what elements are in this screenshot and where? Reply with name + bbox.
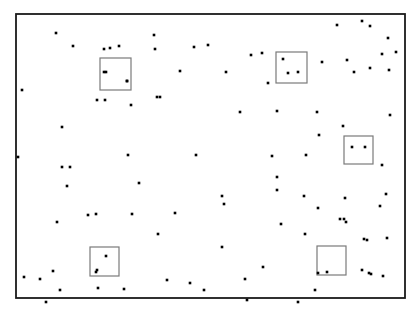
data-point: [166, 279, 169, 282]
data-point: [395, 51, 398, 54]
data-point: [345, 221, 348, 224]
point-group: [17, 20, 398, 304]
data-point: [305, 154, 308, 157]
data-point: [304, 233, 307, 236]
data-point-in-quadrat: [297, 71, 300, 74]
data-point: [103, 48, 106, 51]
data-point: [61, 166, 64, 169]
data-point: [387, 37, 390, 40]
data-point: [207, 44, 210, 47]
data-point: [267, 82, 270, 85]
data-point: [303, 195, 306, 198]
data-point: [297, 301, 300, 304]
data-point: [276, 189, 279, 192]
scatter-plot: [0, 0, 420, 320]
data-point: [225, 71, 228, 74]
data-point-in-quadrat: [96, 269, 99, 272]
data-point: [271, 155, 274, 158]
data-point: [342, 125, 345, 128]
data-point: [246, 299, 249, 302]
data-point: [39, 278, 42, 281]
data-point: [45, 301, 48, 304]
data-point: [369, 25, 372, 28]
data-point: [276, 176, 279, 179]
data-point: [261, 52, 264, 55]
data-point-in-quadrat: [351, 146, 354, 149]
data-point: [23, 276, 26, 279]
data-point: [316, 111, 319, 114]
data-point: [56, 221, 59, 224]
data-point: [21, 89, 24, 92]
data-point: [317, 272, 320, 275]
quadrat-4: [90, 247, 119, 276]
data-point-in-quadrat: [126, 80, 129, 83]
data-point-in-quadrat: [282, 58, 285, 61]
data-point: [346, 59, 349, 62]
data-point: [153, 34, 156, 37]
data-point: [127, 154, 130, 157]
data-point: [370, 273, 373, 276]
data-point: [156, 96, 159, 99]
data-point: [154, 48, 157, 51]
study-plot-boundary: [16, 14, 405, 298]
data-point: [203, 289, 206, 292]
quadrat-1: [100, 58, 131, 90]
data-point: [193, 46, 196, 49]
quadrat-2: [276, 52, 307, 83]
data-point: [381, 164, 384, 167]
data-point: [118, 45, 121, 48]
data-point: [388, 69, 391, 72]
data-point: [159, 96, 162, 99]
data-point: [221, 195, 224, 198]
data-point: [385, 193, 388, 196]
data-point: [174, 212, 177, 215]
data-point: [72, 45, 75, 48]
data-point-in-quadrat: [364, 146, 367, 149]
data-point: [221, 246, 224, 249]
data-point: [361, 20, 364, 23]
data-point: [280, 223, 283, 226]
data-point: [361, 269, 364, 272]
figure-canvas: [0, 0, 420, 320]
data-point: [97, 287, 100, 290]
data-point: [239, 111, 242, 114]
data-point: [339, 218, 342, 221]
data-point: [379, 205, 382, 208]
data-point: [344, 197, 347, 200]
data-point: [382, 275, 385, 278]
quadrat-group: [90, 52, 373, 276]
data-point: [138, 182, 141, 185]
data-point: [318, 134, 321, 137]
data-point: [96, 99, 99, 102]
data-point: [314, 289, 317, 292]
data-point: [336, 24, 339, 27]
data-point: [223, 203, 226, 206]
quadrat-5: [317, 246, 346, 275]
data-point: [369, 67, 372, 70]
data-point: [353, 71, 356, 74]
data-point: [109, 47, 112, 50]
quadrat-3: [344, 136, 373, 164]
data-point: [363, 238, 366, 241]
data-point: [244, 278, 247, 281]
data-point: [195, 154, 198, 157]
data-point-in-quadrat: [326, 271, 329, 274]
data-point: [104, 99, 107, 102]
data-point: [87, 214, 90, 217]
data-point: [343, 218, 346, 221]
data-point: [321, 61, 324, 64]
data-point: [130, 104, 133, 107]
data-point: [179, 70, 182, 73]
data-point: [381, 53, 384, 56]
data-point: [189, 282, 192, 285]
data-point: [66, 185, 69, 188]
data-point: [95, 213, 98, 216]
data-point: [69, 166, 72, 169]
data-point-in-quadrat: [287, 72, 290, 75]
data-point: [276, 110, 279, 113]
data-point: [386, 237, 389, 240]
data-point: [262, 266, 265, 269]
data-point: [131, 213, 134, 216]
data-point: [250, 54, 253, 57]
data-point: [59, 289, 62, 292]
